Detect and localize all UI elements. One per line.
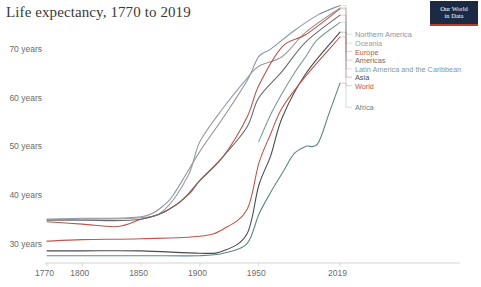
series-line [259,22,340,141]
legend-item-northern-america[interactable]: Northern America [355,31,412,38]
series-line [47,83,340,256]
x-axis-tick-label: 1800 [70,268,89,278]
y-axis-tick-label: 30 years [0,239,42,249]
x-axis-tick-label: 1950 [247,268,266,278]
series-line [47,37,340,241]
y-axis-tick-label: 70 years [0,44,42,54]
legend-item-label: Africa [355,103,374,112]
y-axis-tick-label: 50 years [0,141,42,151]
legend-item-europe[interactable]: Europe [355,49,379,56]
x-axis-tick-label: 1850 [129,268,148,278]
legend-item-asia[interactable]: Asia [355,74,369,81]
x-axis-tick-label: 1900 [188,268,207,278]
legend-connector [340,83,352,107]
x-axis-tick-label: 2019 [328,268,347,278]
legend-item-label: Latin America and the Caribbean [355,65,461,74]
y-axis-tick-label: 60 years [0,93,42,103]
legend-item-label: Northern America [355,30,412,39]
chart-root: Life expectancy, 1770 to 2019 Our World … [0,0,481,287]
y-axis-tick-label: 40 years [0,190,42,200]
legend-item-oceania[interactable]: Oceania [355,40,382,47]
line-chart-svg [0,0,481,287]
legend-item-world[interactable]: World [355,83,374,90]
legend-connector [340,37,352,86]
legend-item-americas[interactable]: Americas [355,57,385,64]
plot-area [0,0,481,287]
x-axis-tick-label: 1770 [35,268,54,278]
legend-item-africa[interactable]: Africa [355,104,374,111]
legend-item-label: World [355,82,374,91]
legend-item-latin-america-and-the-caribbean[interactable]: Latin America and the Caribbean [355,66,461,73]
